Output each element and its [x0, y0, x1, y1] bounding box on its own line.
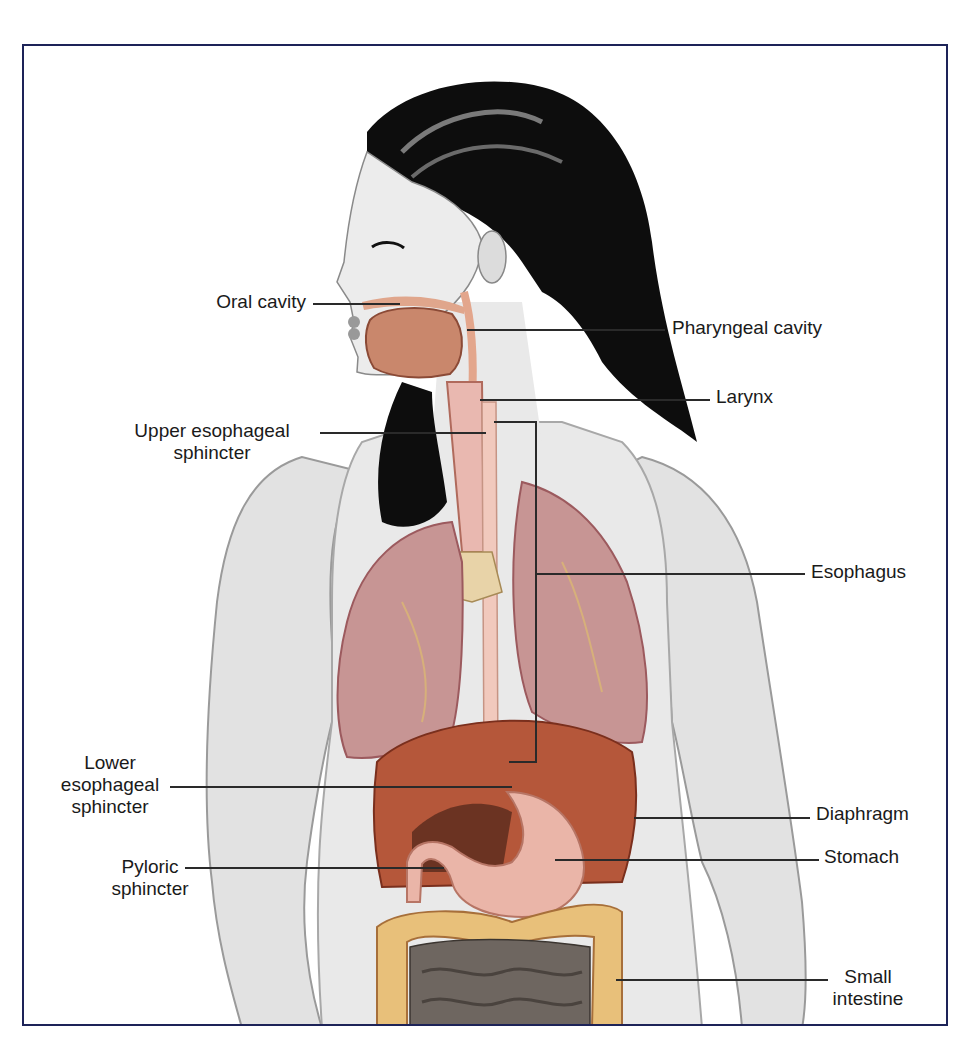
- label-larynx: Larynx: [716, 386, 773, 408]
- label-small-intestine: Small intestine: [818, 966, 918, 1010]
- label-stomach: Stomach: [824, 846, 899, 868]
- label-pharyngeal-cavity: Pharyngeal cavity: [672, 317, 822, 339]
- label-esophagus: Esophagus: [811, 561, 906, 583]
- label-upper-esophageal-sphincter: Upper esophageal sphincter: [112, 420, 312, 464]
- label-lower-esophageal-sphincter: Lower esophageal sphincter: [50, 752, 170, 818]
- label-pyloric-sphincter: Pyloric sphincter: [95, 856, 205, 900]
- small-intestine: [410, 940, 590, 1027]
- body-silhouette: [207, 302, 806, 1026]
- label-oral-cavity: Oral cavity: [150, 291, 306, 313]
- label-diaphragm: Diaphragm: [816, 803, 909, 825]
- tongue: [366, 308, 462, 377]
